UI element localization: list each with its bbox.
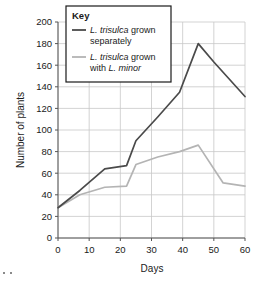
legend-label-grown-with-l-minor-line1: L. trisulca grown	[90, 52, 156, 62]
chart-svg: 020406080100120140160180200 010203040506…	[0, 0, 267, 290]
scan-artifact-dot-right	[10, 272, 12, 274]
svg-text:160: 160	[36, 60, 52, 71]
svg-text:80: 80	[41, 146, 52, 157]
legend-label-grown-separately-line1: L. trisulca grown	[90, 25, 156, 35]
svg-text:120: 120	[36, 103, 52, 114]
svg-text:0: 0	[55, 244, 60, 255]
y-axis-tick-labels: 020406080100120140160180200	[36, 16, 52, 243]
svg-text:60: 60	[240, 244, 251, 255]
svg-text:40: 40	[177, 244, 188, 255]
legend: Key L. trisulca grown separately L. tris…	[66, 6, 171, 82]
svg-text:60: 60	[41, 168, 52, 179]
svg-text:180: 180	[36, 38, 52, 49]
x-axis-tick-labels: 0102030405060	[55, 244, 250, 255]
svg-text:30: 30	[146, 244, 157, 255]
svg-text:100: 100	[36, 124, 52, 135]
y-axis-title: Number of plants	[15, 92, 26, 168]
legend-title: Key	[72, 10, 90, 21]
scan-artifact-dot-left	[3, 272, 5, 274]
line-chart: 020406080100120140160180200 010203040506…	[0, 0, 267, 290]
svg-text:200: 200	[36, 16, 52, 27]
legend-label-grown-separately-line2: separately	[90, 36, 132, 46]
svg-text:40: 40	[41, 189, 52, 200]
svg-text:50: 50	[209, 244, 220, 255]
svg-text:10: 10	[84, 244, 95, 255]
svg-text:0: 0	[47, 232, 52, 243]
x-axis-title: Days	[141, 263, 164, 274]
svg-text:140: 140	[36, 81, 52, 92]
legend-label-grown-with-l-minor-line2: with L. minor	[89, 63, 142, 73]
svg-text:20: 20	[115, 244, 126, 255]
svg-text:20: 20	[41, 211, 52, 222]
